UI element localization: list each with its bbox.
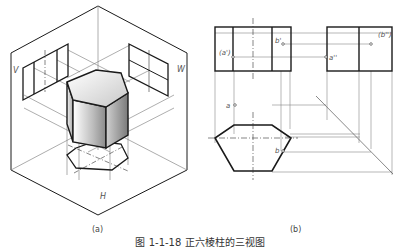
point-label-a: a bbox=[226, 102, 230, 110]
figure-caption: 图 1-1-18 正六棱柱的三视图 bbox=[0, 234, 400, 249]
point-label-a-double-prime: a'' bbox=[329, 54, 337, 62]
plane-label-h: H bbox=[100, 192, 106, 201]
top-view bbox=[208, 112, 298, 180]
point-label-a-prime: (a') bbox=[219, 49, 231, 57]
point-label-b: b bbox=[275, 147, 280, 155]
point-label-b-double-prime: (b'') bbox=[378, 31, 392, 39]
orthographic-view: (a') b' a'' (b'') a b (b) bbox=[208, 18, 393, 234]
subfigure-label-a: (a) bbox=[92, 225, 103, 234]
plane-label-v: V bbox=[13, 66, 19, 75]
w-plane-projection bbox=[129, 44, 168, 96]
point-label-b-prime: b' bbox=[275, 37, 281, 45]
projection-lines-b bbox=[215, 33, 392, 175]
miter-line bbox=[316, 96, 393, 174]
v-plane-projection bbox=[23, 44, 68, 100]
subfigure-label-b: (b) bbox=[290, 225, 301, 234]
isometric-view: V W H (a) bbox=[11, 6, 187, 234]
plane-label-w: W bbox=[177, 65, 186, 74]
hexagonal-prism-solid bbox=[67, 70, 128, 148]
